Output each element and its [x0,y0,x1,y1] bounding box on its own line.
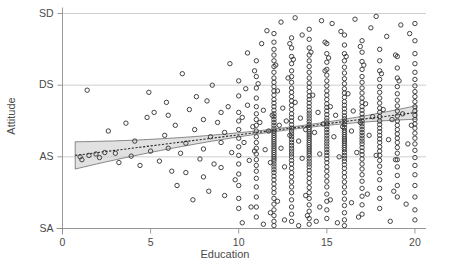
x-tick-label-20: 20 [409,236,421,248]
regression-line [75,112,417,155]
y-tick-label-as: AS [39,150,53,162]
confidence-band [75,106,417,169]
x-axis-title: Education [0,248,450,260]
x-tick-label-10: 10 [233,236,245,248]
scatter-chart: SAASDSSD05101520 Attitude Education [0,0,450,270]
x-tick-label-15: 15 [321,236,333,248]
x-tick-label-0: 0 [60,236,66,248]
y-tick-label-ds: DS [39,78,54,90]
y-tick-label-sd: SD [39,7,54,19]
plot-canvas: SAASDSSD05101520 [0,0,450,270]
y-axis-title: Attitude [5,84,17,148]
y-tick-label-sa: SA [39,222,53,234]
x-tick-label-5: 5 [148,236,154,248]
